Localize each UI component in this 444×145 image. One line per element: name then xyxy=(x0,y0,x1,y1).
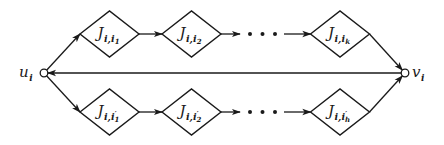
bottom-edge-u-to-node-1 xyxy=(47,76,80,112)
sink-node-v xyxy=(401,69,409,77)
top-ellipsis-dot xyxy=(261,32,265,36)
sink-node-label: vi xyxy=(412,63,425,83)
top-edge-node-k-to-v xyxy=(370,34,403,70)
bottom-ellipsis-dot xyxy=(248,110,252,114)
path-diagram: uiviJi,i1Ji,i2Ji,ikJi,i′1Ji,i′2Ji,i′h xyxy=(0,0,444,145)
bottom-edge-node-k-to-v xyxy=(370,76,403,112)
source-node-u xyxy=(40,69,48,77)
bottom-ellipsis-dot xyxy=(273,110,277,114)
top-ellipsis-dot xyxy=(273,32,277,36)
top-edge-u-to-node-1 xyxy=(47,34,80,70)
source-node-label: ui xyxy=(19,63,33,83)
bottom-ellipsis-dot xyxy=(261,110,265,114)
top-ellipsis-dot xyxy=(248,32,252,36)
